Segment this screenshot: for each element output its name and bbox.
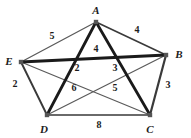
edge-weight-ac: 3: [113, 63, 118, 73]
edge-weight-db: 5: [113, 83, 118, 93]
edge-weight-ad: 2: [75, 63, 80, 73]
graph-vertex-b: [164, 53, 168, 57]
vertex-label-d: D: [40, 124, 48, 135]
graph-edge-db: [47, 55, 166, 115]
graph-vertex-c: [148, 113, 152, 117]
graph-edge-ec: [21, 62, 150, 115]
graph-edge-bc: [150, 55, 166, 115]
edge-weight-dc: 8: [97, 120, 102, 130]
edges-layer: [21, 22, 166, 115]
edge-weight-bc: 3: [166, 80, 171, 90]
vertex-label-b: B: [175, 49, 182, 60]
graph-vertex-e: [19, 60, 23, 64]
vertex-label-e: E: [5, 56, 12, 67]
edge-weight-ae: 5: [50, 31, 55, 41]
edge-weight-eb: 4: [94, 44, 99, 54]
graph-edge-ed: [21, 62, 47, 115]
weighted-graph-figure: ABCDE 5442323658: [0, 0, 191, 138]
graph-edge-eb: [21, 55, 166, 62]
edge-weight-ec: 6: [72, 83, 77, 93]
edge-weight-ed: 2: [13, 79, 18, 89]
graph-edge-ac: [96, 22, 150, 115]
edge-weight-ab: 4: [135, 25, 140, 35]
vertex-label-a: A: [92, 5, 99, 16]
graph-vertex-a: [94, 20, 98, 24]
vertex-label-c: C: [146, 124, 153, 135]
graph-canvas: [0, 0, 191, 138]
graph-vertex-d: [45, 113, 49, 117]
